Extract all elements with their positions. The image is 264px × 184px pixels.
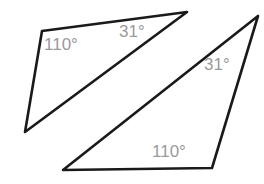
right-triangle-acute-angle-label: 31° — [204, 56, 230, 73]
diagram-canvas: 110° 31° 31° 110° — [0, 0, 264, 184]
left-triangle-acute-angle-label: 31° — [119, 23, 145, 40]
right-triangle-obtuse-angle-label: 110° — [152, 143, 186, 160]
left-triangle-obtuse-angle-label: 110° — [44, 36, 78, 53]
